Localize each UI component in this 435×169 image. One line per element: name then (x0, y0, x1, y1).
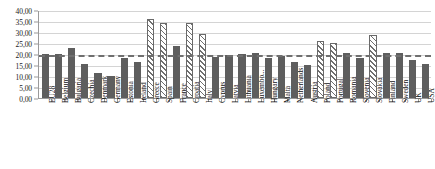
y-axis-tick-label: 0,00 (19, 95, 32, 104)
bar (94, 73, 101, 98)
y-axis-tick-label: 40,00 (16, 7, 32, 16)
x-axis-labels: EU28BelgiumBulgariaCzechiaDenmarkGermany… (38, 103, 431, 169)
y-axis-tick-label: 5,00 (19, 84, 32, 93)
bar (396, 53, 403, 98)
bar (238, 54, 245, 98)
bar (278, 56, 285, 98)
bar (225, 55, 232, 98)
bar (186, 23, 193, 98)
bar (199, 34, 206, 98)
bar (317, 41, 324, 98)
bar (160, 23, 167, 98)
y-axis-tick-label: 30,00 (16, 29, 32, 38)
bar (212, 57, 219, 98)
bar (409, 60, 416, 98)
y-axis-tick-label: 25,00 (16, 40, 32, 49)
bar (121, 58, 128, 98)
bar (42, 54, 49, 98)
bar (291, 62, 298, 98)
y-axis-tick-label: 35,00 (16, 18, 32, 27)
bar (107, 76, 114, 98)
bar (265, 58, 272, 98)
reference-line (39, 55, 431, 57)
bar (422, 64, 429, 98)
bar (147, 19, 154, 98)
bar (330, 43, 337, 98)
y-axis-tick-label: 20,00 (16, 51, 32, 60)
bar (356, 58, 363, 98)
y-axis-tick-label: 15,00 (16, 62, 32, 71)
bar (173, 46, 180, 98)
bar (304, 65, 311, 98)
bar (55, 54, 62, 98)
plot-area (38, 11, 431, 99)
bar (343, 53, 350, 98)
bar-chart: 0,005,0010,0015,0020,0025,0030,0035,0040… (0, 0, 435, 169)
y-axis-tick-label: 10,00 (16, 73, 32, 82)
bar (134, 62, 141, 98)
bar (369, 35, 376, 98)
bar (383, 53, 390, 98)
bar (252, 53, 259, 98)
bar (81, 64, 88, 98)
y-axis: 0,005,0010,0015,0020,0025,0030,0035,0040… (0, 0, 36, 110)
